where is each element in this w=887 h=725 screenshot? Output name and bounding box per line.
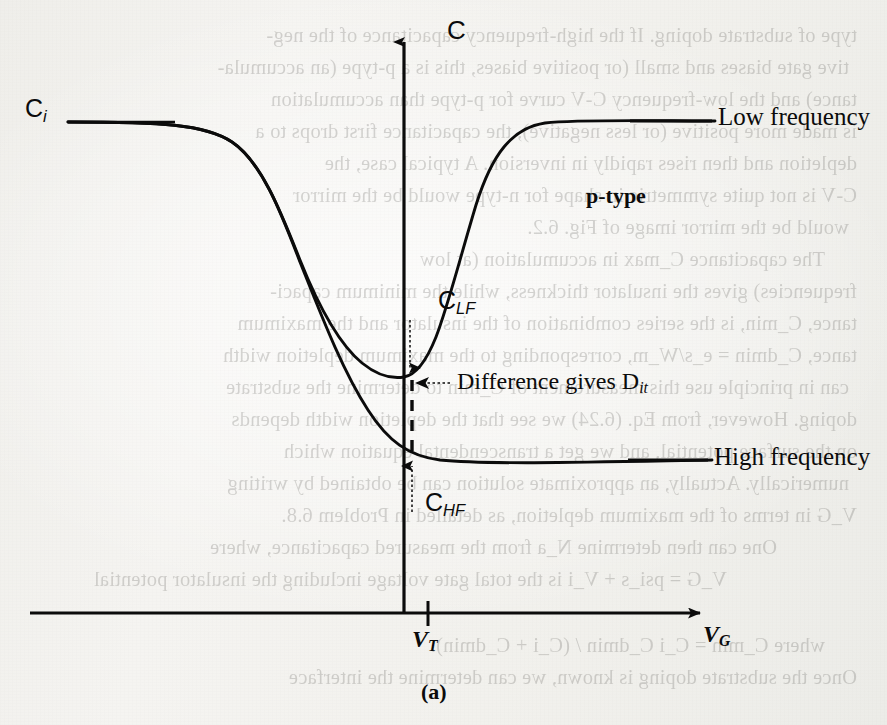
chf-label: CHF <box>425 490 465 518</box>
vg-label-base: V <box>703 621 719 647</box>
clf-label-base: C <box>438 286 456 314</box>
difference-callout-label: Difference gives Dit <box>457 369 648 396</box>
p-type-label: p-type <box>586 185 646 207</box>
ci-label: Ci <box>25 96 47 124</box>
vt-axis-tick-label: VT <box>412 627 438 654</box>
high-frequency-curve <box>68 122 712 463</box>
chf-label-subscript: HF <box>443 501 465 519</box>
c-axis-label: C <box>447 17 466 43</box>
chf-label-base: C <box>425 488 443 516</box>
clf-label: CLF <box>438 288 475 316</box>
vt-label-subscript: T <box>428 637 438 654</box>
ci-label-base: C <box>25 94 43 122</box>
vg-axis-label: VG <box>703 622 730 649</box>
difference-callout-text: Difference gives D <box>457 368 639 394</box>
figure-page: type of substrate doping. If the high-fr… <box>0 0 887 725</box>
figure-caption: (a) <box>421 681 447 703</box>
low-frequency-curve <box>68 121 715 378</box>
clf-label-subscript: LF <box>456 299 475 317</box>
vg-label-subscript: G <box>719 632 730 649</box>
vt-label-base: V <box>412 626 428 652</box>
high-frequency-label: High frequency <box>714 444 870 469</box>
ci-label-subscript: i <box>43 107 47 125</box>
difference-callout-subscript: it <box>639 379 648 396</box>
low-frequency-label: Low frequency <box>718 104 870 129</box>
